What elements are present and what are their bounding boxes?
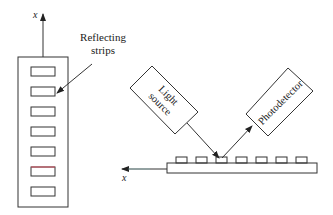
reflecting-strip	[31, 127, 55, 136]
strips-pointer-arrow	[57, 64, 92, 93]
encoder-scale-side	[167, 163, 317, 173]
reflecting-strip	[31, 147, 55, 156]
x-axis-label-left: x	[32, 9, 38, 20]
reflecting-strip-side	[196, 157, 207, 163]
reflecting-strip-side	[236, 157, 247, 163]
reflecting-strip-side	[176, 157, 187, 163]
x-axis-label-right: x	[121, 172, 127, 183]
reflecting-strip-side	[216, 157, 227, 163]
photodetector-box: Photodetector	[246, 68, 313, 136]
reflecting-strip	[31, 107, 55, 116]
reflecting-strip	[31, 187, 55, 196]
reflecting-strip	[31, 67, 55, 76]
annotation-reflecting: Reflecting	[80, 31, 126, 43]
encoder-scale-body	[18, 57, 68, 207]
reflecting-strip-highlighted	[31, 167, 55, 176]
incident-light-beam	[187, 123, 219, 158]
reflecting-strip-side	[296, 157, 307, 163]
reflecting-strip-side	[276, 157, 287, 163]
optical-encoder-diagram: x Reflecting strips x	[0, 0, 333, 215]
annotation-strips: strips	[91, 44, 115, 56]
left-panel-top-view: x Reflecting strips	[18, 9, 126, 207]
reflecting-strip	[31, 87, 55, 96]
right-panel-side-view: x Light source Photodetector	[121, 66, 317, 183]
reflecting-strip-side	[256, 157, 267, 163]
reflected-light-beam	[222, 126, 252, 158]
